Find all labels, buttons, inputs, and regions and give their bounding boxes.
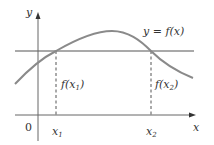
function-graph: y x 0 y = f(x) x1 x2 f(x1) f(x2) [0, 0, 214, 145]
f-x1-label: f(x1) [60, 78, 84, 92]
x2-label: x2 [146, 125, 157, 139]
x-axis-label: x [193, 121, 200, 134]
curve-label: y = f(x) [142, 25, 184, 38]
x1-label: x1 [52, 125, 63, 139]
x-axis-arrow-icon [189, 113, 196, 118]
origin-label: 0 [25, 121, 32, 134]
function-curve [15, 31, 193, 84]
f-x2-label: f(x2) [154, 78, 178, 92]
y-axis-arrow-icon [36, 12, 41, 19]
y-axis-label: y [25, 6, 33, 19]
